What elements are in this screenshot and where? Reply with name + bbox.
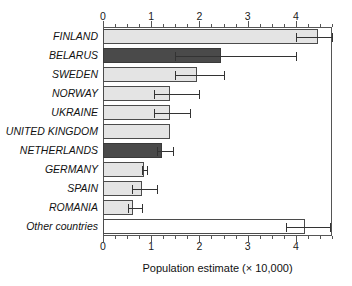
x-tick-label: 1 [148, 10, 154, 22]
error-bar-line [296, 37, 332, 38]
bar-row: FINLAND [103, 27, 332, 46]
x-tick-label: 3 [245, 10, 251, 22]
minor-tick [139, 236, 140, 239]
error-bar-cap [190, 109, 191, 118]
minor-tick [320, 236, 321, 239]
x-tick-label: 4 [293, 10, 299, 22]
bar-row: SPAIN [103, 179, 332, 198]
error-bar-line [175, 75, 223, 76]
category-label: BELARUS [0, 49, 103, 61]
minor-tick [224, 236, 225, 239]
x-tick-label: 0 [100, 240, 106, 252]
bar-row: GERMANY [103, 160, 332, 179]
x-axis-title: Population estimate (× 10,000) [103, 262, 332, 274]
category-label: NORWAY [0, 87, 103, 99]
x-tick-label: 1 [148, 240, 154, 252]
minor-tick [260, 236, 261, 239]
x-tick-label: 2 [196, 10, 202, 22]
category-label: GERMANY [0, 163, 103, 175]
error-bar-cap [296, 52, 297, 61]
bar [103, 124, 170, 139]
minor-tick [332, 24, 333, 27]
error-bar-line [157, 151, 173, 152]
bar-row: Other countries [103, 217, 332, 236]
error-bar-cap [154, 90, 155, 99]
error-bar-line [154, 94, 200, 95]
minor-tick [211, 236, 212, 239]
error-bar-cap [224, 71, 225, 80]
error-bar-cap [142, 204, 143, 213]
bar-row: NETHERLANDS [103, 141, 332, 160]
minor-tick [272, 236, 273, 239]
error-bar-line [128, 208, 141, 209]
error-bar-cap [286, 223, 287, 232]
bar-row: UKRAINE [103, 103, 332, 122]
error-bar-line [154, 113, 190, 114]
error-bar-cap [332, 33, 333, 42]
bar-row: SWEDEN [103, 65, 332, 84]
category-label: UKRAINE [0, 106, 103, 118]
category-label: SPAIN [0, 182, 103, 194]
category-label: UNITED KINGDOM [0, 125, 103, 137]
x-tick-label: 2 [196, 240, 202, 252]
minor-tick [236, 236, 237, 239]
minor-tick [163, 236, 164, 239]
category-label: Other countries [0, 220, 103, 232]
bar-row: UNITED KINGDOM [103, 122, 332, 141]
error-bar-cap [142, 166, 143, 175]
bar-rows: FINLANDBELARUSSWEDENNORWAYUKRAINEUNITED … [103, 27, 332, 236]
error-bar-cap [132, 185, 133, 194]
error-bar-cap [296, 33, 297, 42]
minor-tick [308, 236, 309, 239]
bar-row: ROMANIA [103, 198, 332, 217]
minor-tick [115, 236, 116, 239]
error-bar-cap [157, 185, 158, 194]
bar-row: NORWAY [103, 84, 332, 103]
category-label: NETHERLANDS [0, 144, 103, 156]
minor-tick [332, 236, 333, 239]
x-tick-label: 4 [293, 240, 299, 252]
error-bar-cap [147, 166, 148, 175]
error-bar-cap [173, 147, 174, 156]
error-bar-cap [175, 52, 176, 61]
category-label: FINLAND [0, 30, 103, 42]
error-bar-line [132, 189, 157, 190]
error-bar-cap [154, 109, 155, 118]
x-tick-label: 0 [100, 10, 106, 22]
bar [103, 143, 162, 158]
bar-chart: 01234 01234 FINLANDBELARUSSWEDENNORWAYUK… [0, 0, 352, 286]
error-bar-cap [128, 204, 129, 213]
x-tick-label: 3 [245, 240, 251, 252]
minor-tick [175, 236, 176, 239]
bar [103, 29, 318, 44]
category-label: ROMANIA [0, 201, 103, 213]
error-bar-cap [157, 147, 158, 156]
error-bar-cap [330, 223, 331, 232]
bar [103, 162, 144, 177]
bar-row: BELARUS [103, 46, 332, 65]
error-bar-cap [175, 71, 176, 80]
minor-tick [127, 236, 128, 239]
error-bar-cap [199, 90, 200, 99]
minor-tick [284, 236, 285, 239]
bar [103, 219, 305, 234]
error-bar-line [175, 56, 296, 57]
error-bar-line [286, 227, 329, 228]
minor-tick [187, 236, 188, 239]
category-label: SWEDEN [0, 68, 103, 80]
